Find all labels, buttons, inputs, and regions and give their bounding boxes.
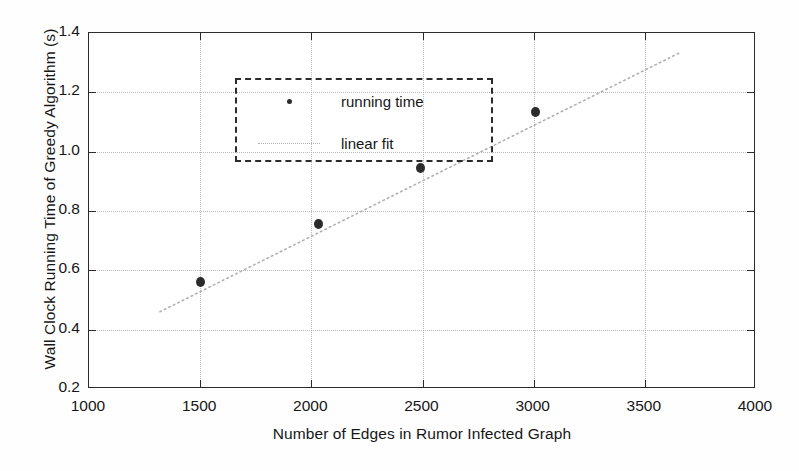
chart-figure: Wall Clock Running Time of Greedy Algori… <box>0 0 799 471</box>
data-point <box>531 107 540 117</box>
data-point <box>314 219 323 229</box>
marker-dot-icon <box>237 99 341 104</box>
legend-box: running time linear fit <box>235 78 493 162</box>
legend-item-running-time: running time <box>237 80 491 122</box>
y-tick-label: 1.4 <box>36 22 80 40</box>
legend-label-running-time: running time <box>341 93 424 110</box>
x-tick-label: 1500 <box>159 397 239 415</box>
legend-item-linear-fit: linear fit <box>237 122 491 164</box>
y-tick-label: 0.4 <box>36 319 80 337</box>
x-axis-title: Number of Edges in Rumor Infected Graph <box>88 425 756 443</box>
x-tick-label: 1000 <box>48 397 128 415</box>
x-tick-label: 3500 <box>604 397 684 415</box>
x-tick-label: 4000 <box>715 397 795 415</box>
y-tick-label: 1.2 <box>36 81 80 99</box>
data-point <box>416 163 425 173</box>
y-tick-label: 1.0 <box>36 141 80 159</box>
legend-label-linear-fit: linear fit <box>341 135 394 152</box>
plot-area: running time linear fit <box>88 32 755 388</box>
y-tick-label: 0.2 <box>36 378 80 396</box>
x-tick-label: 3000 <box>493 397 573 415</box>
y-tick-label: 0.8 <box>36 200 80 218</box>
x-tick-label: 2500 <box>382 397 462 415</box>
x-tick-label: 2000 <box>270 397 350 415</box>
data-point <box>196 277 205 287</box>
dotted-line-icon <box>237 143 341 144</box>
y-tick-label: 0.6 <box>36 259 80 277</box>
